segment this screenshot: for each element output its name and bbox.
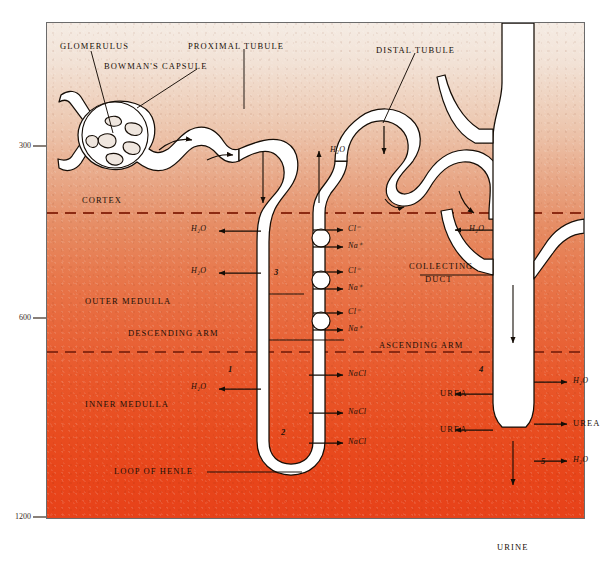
medulla-gradient-panel xyxy=(46,22,585,519)
label-water-descending-2: H₂O xyxy=(191,266,207,275)
nephron-anatomy-svg xyxy=(47,23,584,518)
segment-number-1: 1 xyxy=(228,364,233,374)
label-water-distal-in: H₂O xyxy=(330,145,346,154)
label-collecting-duct-line2: DUCT xyxy=(425,274,453,284)
label-nacl-3: NaCl xyxy=(348,437,367,446)
ion-pump-2 xyxy=(312,271,330,289)
label-water-descending-3: H₂O xyxy=(191,382,207,391)
axis-tick-1200: 1200 xyxy=(0,512,31,521)
distal-tubule-shape xyxy=(335,109,502,219)
label-chloride-1: Cl⁻ xyxy=(348,224,361,233)
label-nacl-1: NaCl xyxy=(348,369,367,378)
segment-number-5: 5 xyxy=(541,456,546,466)
label-ascending-arm: ASCENDING ARM xyxy=(379,340,463,350)
label-sodium-3: Na⁺ xyxy=(348,324,363,333)
label-sodium-1: Na⁺ xyxy=(348,241,363,250)
axis-tick-300: 300 xyxy=(0,141,31,150)
label-proximal-tubule: PROXIMAL TUBULE xyxy=(188,41,284,51)
distal-flow-arrow-2 xyxy=(459,191,474,213)
water-efflux-arrows-descending xyxy=(219,231,261,389)
label-water-collecting-1: H₂O xyxy=(469,224,485,233)
label-cortex: CORTEX xyxy=(82,195,122,205)
label-collecting-duct: COLLECTING xyxy=(409,261,473,271)
ion-pump-1 xyxy=(312,229,330,247)
axis-tick-600: 600 xyxy=(0,313,31,322)
label-urine: URINE xyxy=(497,542,528,552)
label-water-descending-1: H₂O xyxy=(191,224,207,233)
label-nacl-2: NaCl xyxy=(348,407,367,416)
nephron-figure: 300 600 1200 GLOMERULUS BOWMAN'S CAPSULE… xyxy=(0,0,613,579)
label-urea-3: UREA xyxy=(440,424,468,434)
label-inner-medulla: INNER MEDULLA xyxy=(85,399,169,409)
label-urea-2: UREA xyxy=(573,418,601,428)
segment-number-4: 4 xyxy=(479,364,484,374)
label-bowmans-capsule: BOWMAN'S CAPSULE xyxy=(104,61,207,71)
label-distal-tubule: DISTAL TUBULE xyxy=(376,45,455,55)
segment-number-3: 3 xyxy=(274,267,279,277)
label-glomerulus: GLOMERULUS xyxy=(60,41,129,51)
label-outer-medulla: OUTER MEDULLA xyxy=(85,296,171,306)
glomerulus-capillary-tuft xyxy=(82,102,148,168)
label-descending-arm: DESCENDING ARM xyxy=(128,328,219,338)
label-sodium-2: Na⁺ xyxy=(348,283,363,292)
collecting-duct-shape xyxy=(437,23,584,427)
ion-pump-group xyxy=(312,229,330,330)
label-loop-of-henle: LOOP OF HENLE xyxy=(114,466,193,476)
label-chloride-3: Cl⁻ xyxy=(348,307,361,316)
segment-number-2: 2 xyxy=(281,427,286,437)
ion-pump-3 xyxy=(312,312,330,330)
label-water-collecting-3: H₂O xyxy=(573,455,589,464)
loop-of-henle-shape xyxy=(239,139,347,475)
label-urea-1: UREA xyxy=(440,388,468,398)
label-water-collecting-2: H₂O xyxy=(573,376,589,385)
label-chloride-2: Cl⁻ xyxy=(348,266,361,275)
